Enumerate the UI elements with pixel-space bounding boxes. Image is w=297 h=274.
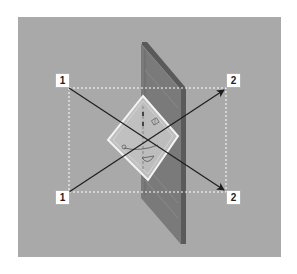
axis-tick-icon [142, 112, 144, 116]
axis-tick-icon [142, 122, 144, 126]
corner-label-top-left: 1 [56, 74, 69, 87]
corner-label-bottom-right: 2 [227, 191, 240, 204]
diagram-canvas: 1 2 1 2 [0, 0, 297, 274]
diagram-illustration [0, 0, 297, 274]
corner-label-bottom-left: 1 [56, 191, 69, 204]
corner-label-top-right: 2 [227, 74, 240, 87]
